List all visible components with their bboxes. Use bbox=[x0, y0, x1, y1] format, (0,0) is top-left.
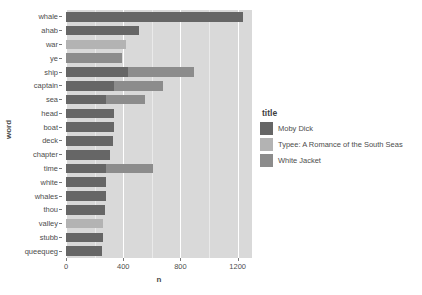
bar-row bbox=[66, 65, 252, 79]
bar-row bbox=[66, 162, 252, 176]
y-tick-mark bbox=[59, 237, 62, 238]
y-tick-label: stubb bbox=[14, 231, 62, 245]
legend-swatch bbox=[260, 138, 273, 151]
y-axis-tick-labels: whaleahabwaryeshipcaptainseaheadboatdeck… bbox=[14, 10, 62, 258]
stacked-bar bbox=[66, 40, 126, 50]
y-tick-mark bbox=[59, 16, 62, 17]
y-tick-label: head bbox=[14, 106, 62, 120]
bar-row bbox=[66, 51, 252, 65]
bar-rows bbox=[66, 10, 252, 258]
y-tick-mark bbox=[59, 196, 62, 197]
x-tick-mark bbox=[66, 258, 67, 261]
legend-item-label: White Jacket bbox=[278, 156, 321, 165]
bar-row bbox=[66, 203, 252, 217]
y-tick-label: ye bbox=[14, 51, 62, 65]
bar-row bbox=[66, 189, 252, 203]
stacked-bar bbox=[66, 246, 102, 256]
y-tick-mark bbox=[59, 30, 62, 31]
plot-panel bbox=[66, 10, 252, 258]
bar-segment bbox=[106, 164, 153, 174]
y-tick-mark bbox=[59, 154, 62, 155]
y-tick-mark bbox=[59, 209, 62, 210]
bar-row bbox=[66, 148, 252, 162]
stacked-bar bbox=[66, 109, 114, 119]
y-tick-mark bbox=[59, 223, 62, 224]
bar-segment bbox=[66, 177, 106, 187]
y-tick-mark bbox=[59, 182, 62, 183]
bar-segment bbox=[66, 67, 128, 77]
stacked-bar bbox=[66, 95, 145, 105]
legend-item[interactable]: Typee: A Romance of the South Seas bbox=[260, 138, 420, 151]
bar-segment bbox=[66, 12, 243, 22]
legend-item[interactable]: Moby Dick bbox=[260, 122, 420, 135]
bar-segment bbox=[114, 81, 163, 91]
stacked-bar bbox=[66, 164, 153, 174]
bar-segment bbox=[66, 53, 122, 63]
y-tick-mark bbox=[59, 140, 62, 141]
bar-row bbox=[66, 231, 252, 245]
y-tick-mark bbox=[59, 58, 62, 59]
stacked-bar bbox=[66, 205, 105, 215]
y-tick-label: sea bbox=[14, 93, 62, 107]
y-tick-label: captain bbox=[14, 79, 62, 93]
bar-segment bbox=[66, 205, 105, 215]
stacked-bar bbox=[66, 12, 243, 22]
y-tick-label: thou bbox=[14, 203, 62, 217]
bar-segment bbox=[66, 81, 114, 91]
x-tick-label: 0 bbox=[64, 262, 68, 271]
y-tick-label: war bbox=[14, 38, 62, 52]
bar-segment bbox=[66, 219, 103, 229]
stacked-bar bbox=[66, 53, 122, 63]
bar-row bbox=[66, 134, 252, 148]
y-tick-label: deck bbox=[14, 134, 62, 148]
bar-row bbox=[66, 93, 252, 107]
y-tick-label: chapter bbox=[14, 148, 62, 162]
y-tick-label: whales bbox=[14, 189, 62, 203]
bar-segment bbox=[106, 95, 145, 105]
legend-title: title bbox=[260, 108, 420, 118]
x-axis-title: n bbox=[66, 275, 252, 284]
stacked-bar bbox=[66, 122, 114, 132]
y-tick-mark bbox=[59, 72, 62, 73]
y-tick-mark bbox=[59, 85, 62, 86]
bar-segment bbox=[66, 150, 110, 160]
legend-item-label: Typee: A Romance of the South Seas bbox=[278, 140, 403, 149]
bar-row bbox=[66, 10, 252, 24]
bar-segment bbox=[66, 136, 113, 146]
legend-item[interactable]: White Jacket bbox=[260, 154, 420, 167]
bar-segment bbox=[66, 164, 106, 174]
legend-items: Moby DickTypee: A Romance of the South S… bbox=[260, 122, 420, 167]
bar-segment bbox=[66, 233, 103, 243]
bar-segment bbox=[66, 122, 114, 132]
stacked-bar bbox=[66, 177, 106, 187]
y-tick-label: white bbox=[14, 175, 62, 189]
y-tick-label: ahab bbox=[14, 24, 62, 38]
stacked-bar bbox=[66, 81, 163, 91]
bar-row bbox=[66, 120, 252, 134]
bar-row bbox=[66, 175, 252, 189]
stacked-bar bbox=[66, 233, 103, 243]
x-tick-mark bbox=[180, 258, 181, 261]
bar-chart: word whaleahabwaryeshipcaptainseaheadboa… bbox=[0, 0, 422, 295]
stacked-bar bbox=[66, 150, 110, 160]
stacked-bar bbox=[66, 219, 103, 229]
y-tick-label: time bbox=[14, 162, 62, 176]
bar-row bbox=[66, 79, 252, 93]
x-tick-mark bbox=[123, 258, 124, 261]
y-tick-label: queequeg bbox=[14, 244, 62, 258]
y-tick-label: valley bbox=[14, 217, 62, 231]
stacked-bar bbox=[66, 67, 194, 77]
y-tick-mark bbox=[59, 99, 62, 100]
bar-row bbox=[66, 244, 252, 258]
x-tick-label: 400 bbox=[117, 262, 130, 271]
bar-segment bbox=[128, 67, 194, 77]
legend-item-label: Moby Dick bbox=[278, 124, 313, 133]
stacked-bar bbox=[66, 26, 139, 36]
y-tick-label: whale bbox=[14, 10, 62, 24]
y-tick-mark bbox=[59, 168, 62, 169]
x-tick-label: 800 bbox=[174, 262, 187, 271]
bar-segment bbox=[66, 191, 106, 201]
y-tick-mark bbox=[59, 127, 62, 128]
bar-segment bbox=[66, 26, 139, 36]
bar-row bbox=[66, 106, 252, 120]
